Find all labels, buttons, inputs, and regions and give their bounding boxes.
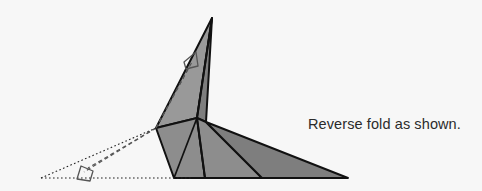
origami-diagram-svg [0,0,482,191]
instruction-caption: Reverse fold as shown. [308,116,461,132]
diagram-page: 4 Reverse fold as shown. [0,0,482,191]
